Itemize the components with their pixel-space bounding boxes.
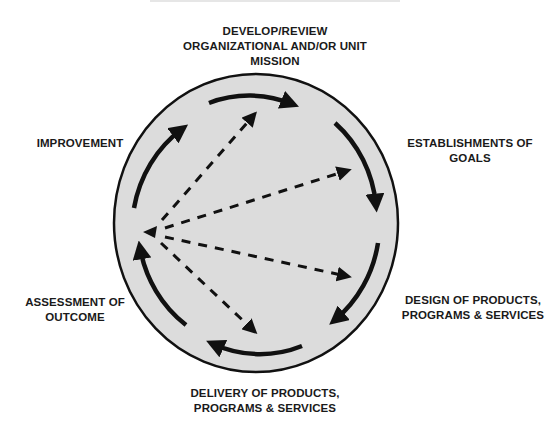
node-label-improvement: IMPROVEMENT	[20, 136, 140, 151]
node-label-mission: DEVELOP/REVIEW ORGANIZATIONAL AND/OR UNI…	[160, 24, 390, 69]
node-label-goals: ESTABLISHMENTS OF GOALS	[395, 136, 545, 166]
node-label-delivery: DELIVERY OF PRODUCTS, PROGRAMS & SERVICE…	[180, 386, 350, 416]
node-label-design: DESIGN OF PRODUCTS, PROGRAMS & SERVICES	[393, 293, 550, 323]
node-label-assessment: ASSESSMENT OF OUTCOME	[10, 295, 140, 325]
cycle-circle	[114, 74, 398, 372]
